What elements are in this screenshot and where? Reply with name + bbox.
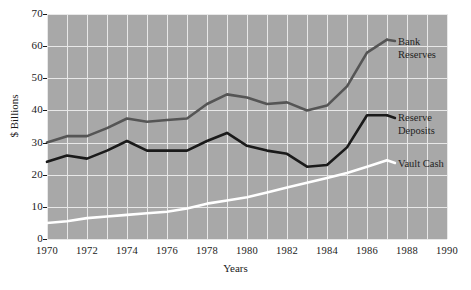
- y-tick-mark: [43, 143, 47, 144]
- legend-reserve-deposits-line2: Deposits: [398, 125, 435, 138]
- y-tick-mark: [43, 46, 47, 47]
- legend-leader-bank-reserves: [387, 40, 395, 41]
- y-tick-mark: [43, 110, 47, 111]
- y-tick-mark: [43, 207, 47, 208]
- bank-reserves-line-chart: 010203040506070 197019721974197619781980…: [0, 0, 471, 290]
- legend-bank-reserves-line1: Bank: [398, 36, 436, 49]
- y-tick-mark: [43, 239, 47, 240]
- legend-leader-reserve-deposits: [387, 115, 395, 118]
- y-tick-mark: [43, 175, 47, 176]
- series-line-vault-cash: [47, 160, 387, 223]
- legend-bank-reserves-line2: Reserves: [398, 49, 436, 62]
- legend-vault-cash-line1: Vault Cash: [398, 158, 444, 171]
- legend-reserve-deposits-line1: Reserve: [398, 112, 435, 125]
- series-line-bank-reserves: [47, 40, 387, 143]
- y-tick-mark: [43, 14, 47, 15]
- legend-reserve-deposits: Reserve Deposits: [398, 112, 435, 137]
- legend-leader-vault-cash: [387, 160, 395, 163]
- legend-bank-reserves: Bank Reserves: [398, 36, 436, 61]
- series-line-reserve-deposits: [47, 115, 387, 166]
- y-tick-mark: [43, 78, 47, 79]
- legend-vault-cash: Vault Cash: [398, 158, 444, 171]
